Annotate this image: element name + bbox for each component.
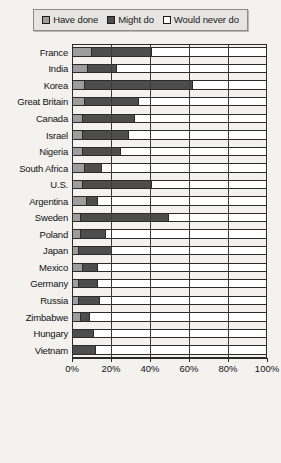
stacked-bar[interactable]: [72, 229, 267, 238]
segment-would-never-do: [100, 297, 266, 304]
stacked-bar[interactable]: [72, 130, 267, 139]
segment-would-never-do: [106, 230, 266, 237]
bar-track: [72, 209, 267, 226]
category-label: Great Britain: [0, 96, 72, 107]
category-label: Canada: [0, 113, 72, 124]
bar-track: [72, 259, 267, 276]
segment-might-do: [79, 247, 112, 254]
stacked-bar[interactable]: [72, 345, 267, 354]
segment-would-never-do: [90, 313, 266, 320]
axis-tick-label: 40%: [140, 363, 159, 374]
legend-label-have-done: Have done: [53, 15, 98, 25]
bar-track: [72, 61, 267, 78]
segment-would-never-do: [102, 164, 266, 171]
segment-have-done: [73, 131, 83, 138]
segment-have-done: [73, 264, 83, 271]
bar-track: [72, 309, 267, 326]
segment-would-never-do: [169, 214, 266, 221]
chart-row: Canada: [0, 110, 281, 127]
stacked-bar[interactable]: [72, 312, 267, 321]
category-label: Germany: [0, 278, 72, 289]
bar-rows: FranceIndiaKoreaGreat BritainCanadaIsrae…: [0, 44, 281, 358]
segment-might-do: [83, 264, 98, 271]
segment-might-do: [83, 131, 129, 138]
segment-have-done: [73, 181, 83, 188]
legend-swatch-have-done: [42, 16, 50, 24]
stacked-bar[interactable]: [72, 213, 267, 222]
chart-row: France: [0, 44, 281, 61]
segment-would-never-do: [117, 65, 266, 72]
chart-row: Germany: [0, 276, 281, 293]
stacked-bar[interactable]: [72, 180, 267, 189]
legend-label-would-never-do: Would never do: [174, 15, 239, 25]
segment-might-do: [73, 330, 94, 337]
legend-item-might-do: Might do: [107, 15, 154, 25]
stacked-bar[interactable]: [72, 196, 267, 205]
stacked-bar[interactable]: [72, 147, 267, 156]
chart-row: U.S.: [0, 176, 281, 193]
segment-would-never-do: [98, 280, 266, 287]
chart-row: Korea: [0, 77, 281, 94]
segment-would-never-do: [98, 264, 266, 271]
bar-track: [72, 110, 267, 127]
stacked-bar[interactable]: [72, 329, 267, 338]
category-label: Russia: [0, 295, 72, 306]
category-label: Japan: [0, 245, 72, 256]
axis-tick-label: 20%: [101, 363, 120, 374]
segment-have-done: [73, 230, 81, 237]
bar-track: [72, 276, 267, 293]
stacked-bar[interactable]: [72, 64, 267, 73]
segment-would-never-do: [139, 98, 266, 105]
segment-have-done: [73, 65, 88, 72]
segment-might-do: [92, 48, 152, 55]
bar-track: [72, 127, 267, 144]
stacked-bar[interactable]: [72, 80, 267, 89]
stacked-bar[interactable]: [72, 246, 267, 255]
category-label: South Africa: [0, 163, 72, 174]
category-label: Vietnam: [0, 345, 72, 356]
axis-tick: [150, 358, 151, 362]
legend-item-would-never-do: Would never do: [163, 15, 239, 25]
segment-might-do: [85, 81, 193, 88]
category-label: Nigeria: [0, 146, 72, 157]
category-label: Poland: [0, 229, 72, 240]
bar-track: [72, 342, 267, 359]
bar-track: [72, 176, 267, 193]
stacked-bar[interactable]: [72, 263, 267, 272]
chart-row: Israel: [0, 127, 281, 144]
segment-have-done: [73, 115, 83, 122]
chart-row: Japan: [0, 243, 281, 260]
segment-would-never-do: [152, 181, 266, 188]
segment-might-do: [88, 65, 117, 72]
axis-tick-label: 60%: [179, 363, 198, 374]
category-label: France: [0, 47, 72, 58]
segment-have-done: [73, 164, 85, 171]
legend-swatch-might-do: [107, 16, 115, 24]
segment-have-done: [73, 313, 81, 320]
stacked-bar[interactable]: [72, 114, 267, 123]
segment-have-done: [73, 81, 85, 88]
legend-label-might-do: Might do: [118, 15, 154, 25]
legend-item-have-done: Have done: [42, 15, 98, 25]
category-label: Sweden: [0, 212, 72, 223]
stacked-bar[interactable]: [72, 163, 267, 172]
segment-might-do: [81, 313, 91, 320]
chart-page: Have done Might do Would never do France…: [0, 0, 281, 463]
stacked-bar[interactable]: [72, 296, 267, 305]
stacked-bar[interactable]: [72, 97, 267, 106]
segment-might-do: [79, 297, 100, 304]
segment-might-do: [83, 181, 152, 188]
category-label: Argentina: [0, 196, 72, 207]
segment-might-do: [81, 214, 170, 221]
segment-would-never-do: [152, 48, 266, 55]
segment-might-do: [83, 148, 122, 155]
stacked-bar[interactable]: [72, 47, 267, 56]
chart-legend: Have done Might do Would never do: [33, 9, 248, 31]
stacked-bar[interactable]: [72, 279, 267, 288]
segment-might-do: [79, 280, 98, 287]
category-label: Korea: [0, 80, 72, 91]
axis-tick-label: 80%: [218, 363, 237, 374]
segment-have-done: [73, 197, 87, 204]
bar-track: [72, 44, 267, 61]
bar-track: [72, 143, 267, 160]
